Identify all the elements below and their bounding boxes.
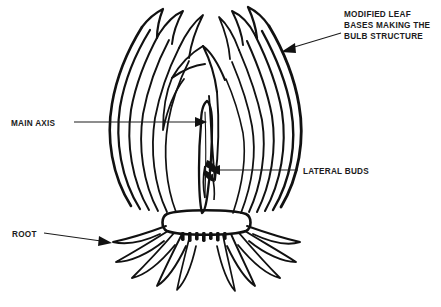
label-modified-leaf-bases-line3: BULB STRUCTURE <box>344 32 423 41</box>
leaf-base-right-7 <box>226 79 244 213</box>
leaf-tip-left-b <box>159 11 183 44</box>
bulb-diagram: MODIFIED LEAF BASES MAKING THE BULB STRU… <box>0 0 441 307</box>
root-right-2 <box>245 231 296 262</box>
root-stub-5 <box>209 232 213 240</box>
root-left-2 <box>116 231 168 262</box>
label-root: ROOT <box>12 230 37 239</box>
root-stub-6 <box>216 232 220 242</box>
label-modified-leaf-bases-line2: BASES MAKING THE <box>344 21 431 30</box>
leader-line-modified-leaf-bases <box>291 33 341 48</box>
label-lateral-buds: LATERAL BUDS <box>303 167 369 176</box>
figure-canvas: MODIFIED LEAF BASES MAKING THE BULB STRU… <box>0 0 441 307</box>
root-right-5 <box>217 235 235 291</box>
root-left-5 <box>177 235 196 290</box>
leaf-base-outer-left-2 <box>118 30 150 209</box>
leader-modified-leaf-bases <box>281 33 341 53</box>
basal-plate-group <box>163 210 251 242</box>
leader-main-axis <box>74 117 207 127</box>
leaf-tip-right-a <box>248 7 269 38</box>
leader-line-root <box>44 233 101 241</box>
root-left-1 <box>113 226 166 243</box>
leader-root <box>44 233 112 246</box>
inner-leaf-sheath-right <box>203 46 225 92</box>
label-main-axis: MAIN AXIS <box>11 119 56 128</box>
root-stub-4 <box>202 232 206 242</box>
root-stub-3 <box>195 232 199 241</box>
label-modified-leaf-bases-line1: MODIFIED LEAF <box>344 10 411 19</box>
basal-plate <box>163 210 251 235</box>
arrowhead-root <box>98 236 112 246</box>
main-axis-inner-line <box>205 112 206 196</box>
root-right-1 <box>247 226 300 244</box>
arrowhead-modified-leaf-bases <box>281 43 296 53</box>
leaf-tip-right-c <box>219 17 239 59</box>
leaf-tip-left-c <box>179 15 203 58</box>
lateral-bud-stalk <box>204 166 206 198</box>
